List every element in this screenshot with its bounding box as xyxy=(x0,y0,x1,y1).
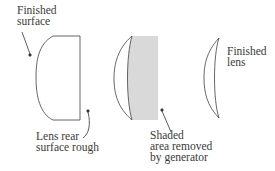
finished-lens-shape xyxy=(204,38,219,118)
lens-blank-shape xyxy=(36,36,80,120)
shaded-area-label: Shaded area removed by generator xyxy=(150,130,212,163)
finished-lens-label: Finished lens xyxy=(227,46,267,68)
generated-lens-shape xyxy=(114,36,158,120)
rear-surface-label: Lens rear surface rough xyxy=(36,131,99,153)
finished-surface-label: Finished surface xyxy=(17,5,57,27)
shaded-removed-area xyxy=(128,36,159,120)
